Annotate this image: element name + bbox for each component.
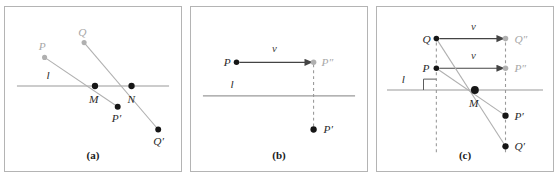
panel-c-canvas: Q Q″ P P″ M P′ Q′ v v l — [377, 7, 553, 171]
label-m: M — [468, 97, 479, 109]
label-p-prime: P′ — [322, 123, 333, 135]
label-line-l: l — [231, 78, 234, 90]
point-p — [434, 65, 440, 71]
label-q-double-prime: Q″ — [514, 33, 527, 45]
panel-a-canvas: P Q M N P′ Q′ l — [5, 7, 181, 171]
label-n: N — [127, 93, 137, 105]
point-q-double-prime — [503, 36, 509, 42]
label-p: P — [422, 62, 430, 74]
label-p: P — [223, 56, 231, 68]
label-q-prime: Q′ — [153, 135, 164, 147]
label-p-double-prime: P″ — [320, 56, 333, 68]
label-p-prime: P′ — [513, 110, 524, 122]
label-vector-v-mid: v — [471, 49, 476, 61]
label-p-prime: P′ — [111, 112, 122, 124]
right-angle-marker — [424, 79, 437, 90]
caption-a: (a) — [5, 149, 181, 161]
caption-b: (b) — [191, 149, 367, 161]
panel-c: Q Q″ P P″ M P′ Q′ v v l (c) — [376, 6, 554, 172]
point-p-prime — [502, 113, 508, 119]
point-n — [128, 83, 134, 89]
geometry-figure: P Q M N P′ Q′ l (a) — [0, 0, 558, 180]
panel-b: P P″ P′ v l (b) — [190, 6, 368, 172]
label-q: Q — [423, 33, 431, 45]
caption-c: (c) — [377, 149, 553, 161]
label-p: P — [38, 40, 46, 52]
point-p — [42, 55, 47, 60]
label-line-l: l — [402, 73, 405, 85]
point-m — [92, 83, 98, 89]
panel-b-canvas: P P″ P′ v l — [191, 7, 367, 171]
label-vector-v-top: v — [471, 20, 476, 32]
label-p-double-prime: P″ — [513, 62, 526, 74]
point-q — [82, 40, 87, 45]
point-p — [234, 60, 240, 66]
point-p-double-prime — [503, 65, 509, 71]
point-p-prime — [115, 104, 121, 110]
point-p-double-prime — [311, 60, 317, 66]
ray-p-to-pprime — [45, 57, 118, 106]
label-line-l: l — [47, 69, 50, 81]
label-q: Q — [78, 26, 86, 38]
point-m — [471, 86, 479, 94]
panel-a: P Q M N P′ Q′ l (a) — [4, 6, 182, 172]
label-vector-v: v — [272, 42, 277, 54]
point-q-prime — [155, 127, 161, 133]
point-q — [434, 36, 440, 42]
point-p-prime — [310, 126, 316, 132]
label-m: M — [88, 93, 99, 105]
